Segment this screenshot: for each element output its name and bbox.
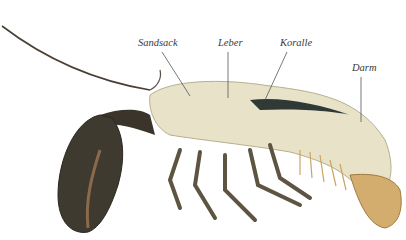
claw <box>58 115 123 232</box>
lobster-anatomy-figure: Sandsack Leber Koralle Darm <box>0 0 406 240</box>
walking-legs <box>170 145 310 220</box>
antenna <box>2 26 150 90</box>
label-leber: Leber <box>218 37 243 48</box>
label-koralle: Koralle <box>280 37 312 48</box>
label-sandsack: Sandsack <box>138 37 178 48</box>
label-darm: Darm <box>352 62 377 73</box>
tail-fan <box>350 174 401 228</box>
lobster-illustration <box>0 0 406 240</box>
